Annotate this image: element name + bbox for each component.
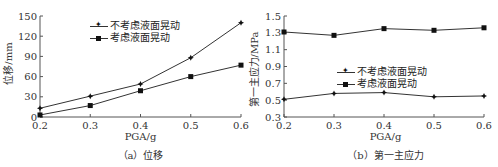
star-marker-icon [481, 93, 487, 99]
y-tick-label: 60 [24, 71, 37, 82]
y-tick-label: 1.3 [265, 27, 281, 38]
x-axis-label: PGA/g [261, 131, 498, 142]
square-marker-icon [337, 78, 355, 90]
chart-caption: （b）第一主应力 [261, 147, 498, 162]
star-marker-icon [238, 20, 244, 26]
square-marker-icon [382, 26, 387, 31]
star-marker-icon [37, 105, 43, 111]
y-tick-label: 30 [24, 91, 37, 102]
square-marker-icon [332, 33, 337, 38]
chart-panel-first-principal-stress: 0.30.50.70.91.11.31.50.20.30.40.50.6 第一主… [249, 0, 498, 167]
square-marker-icon [432, 28, 437, 33]
legend-item: 不考虑液面晃动 [337, 66, 427, 78]
x-tick-label: 0.3 [326, 120, 342, 131]
x-tick-label: 0.5 [426, 120, 442, 131]
legend: 不考虑液面晃动 考虑液面晃动 [337, 66, 427, 90]
x-tick-label: 0.2 [276, 120, 292, 131]
y-tick-label: 0.7 [265, 78, 281, 89]
y-tick-label: 150 [18, 11, 37, 22]
star-marker-icon [431, 94, 437, 100]
legend-item: 考虑液面晃动 [337, 78, 427, 90]
star-marker-icon [87, 93, 93, 99]
x-tick-label: 0.6 [233, 120, 249, 131]
square-marker-icon [38, 112, 43, 117]
square-marker-icon [88, 103, 93, 108]
x-tick-label: 0.3 [82, 120, 98, 131]
star-marker-icon [337, 66, 355, 78]
star-marker-icon [90, 20, 108, 32]
legend-label: 不考虑液面晃动 [357, 66, 427, 78]
y-tick-label: 0.5 [265, 95, 281, 106]
square-marker-icon [482, 25, 487, 30]
y-tick-label: 90 [24, 51, 37, 62]
legend-item: 不考虑液面晃动 [90, 20, 180, 32]
y-tick-label: 0.9 [265, 61, 281, 72]
y-tick-label: 1.5 [265, 11, 281, 22]
y-tick-label: 1.1 [265, 44, 281, 55]
square-marker-icon [282, 29, 287, 34]
chart-caption: （a）位移 [16, 147, 265, 162]
star-marker-icon [188, 55, 194, 61]
x-tick-label: 0.4 [376, 120, 392, 131]
star-marker-icon [331, 90, 337, 96]
legend-item: 考虑液面晃动 [90, 32, 180, 44]
star-marker-icon [381, 90, 387, 96]
square-marker-icon [188, 74, 193, 79]
x-tick-label: 0.5 [183, 120, 199, 131]
legend-label: 考虑液面晃动 [110, 32, 170, 44]
legend-label: 不考虑液面晃动 [110, 20, 180, 32]
x-tick-label: 0.6 [476, 120, 492, 131]
square-marker-icon [90, 32, 108, 44]
y-tick-label: 120 [18, 31, 37, 42]
legend-label: 考虑液面晃动 [357, 78, 417, 90]
square-marker-icon [239, 63, 244, 68]
x-tick-label: 0.4 [133, 120, 149, 131]
star-marker-icon [138, 81, 144, 87]
square-marker-icon [138, 88, 143, 93]
legend: 不考虑液面晃动 考虑液面晃动 [90, 20, 180, 44]
y-axis-label: 位移/mm [0, 42, 15, 84]
star-marker-icon [281, 96, 287, 102]
x-tick-label: 0.2 [32, 120, 48, 131]
x-axis-label: PGA/g [16, 131, 265, 142]
chart-panel-displacement: 03060901201500.20.30.40.50.6 位移/mm PGA/g… [0, 0, 249, 167]
y-axis-label: 第一主应力/MPa [246, 32, 261, 108]
